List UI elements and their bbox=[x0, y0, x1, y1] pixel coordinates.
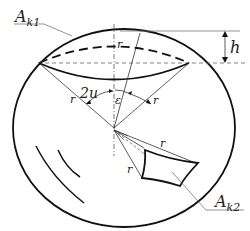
arrowhead bbox=[222, 31, 228, 37]
cone-left-radius bbox=[39, 63, 114, 128]
patch-radius-4 bbox=[114, 130, 144, 148]
label-r-right: r bbox=[153, 94, 159, 107]
label-ak1: Ak1 bbox=[13, 7, 40, 29]
arrowhead bbox=[109, 89, 113, 93]
arrowhead bbox=[222, 57, 228, 63]
angle-arc-epsilon bbox=[115, 90, 128, 93]
label-r-top: r bbox=[117, 38, 123, 51]
sphere-diagram: Ak1 Ak2 h r 2u ε r r r r bbox=[0, 0, 250, 231]
label-r-patch-top: r bbox=[160, 137, 166, 150]
label-epsilon: ε bbox=[115, 94, 121, 107]
label-2u: 2u bbox=[79, 85, 98, 101]
surface-patch bbox=[142, 150, 198, 186]
label-ak2: Ak2 bbox=[213, 192, 240, 214]
label-r-patch-left: r bbox=[127, 163, 133, 176]
shading-arc-inner bbox=[58, 150, 80, 177]
sphere-outline bbox=[13, 29, 235, 227]
cone-right-radius bbox=[114, 63, 189, 128]
label-h: h bbox=[230, 38, 240, 57]
label-r-left: r bbox=[70, 93, 76, 106]
